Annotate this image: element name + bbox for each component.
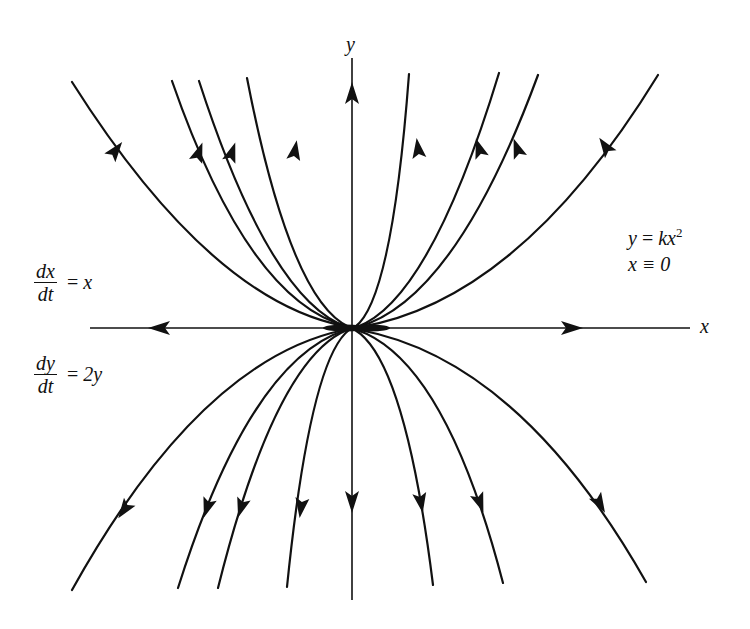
lower-arrowheads	[113, 491, 612, 522]
equation-rhs: = x	[67, 271, 92, 294]
lower-trajectories	[72, 330, 646, 590]
fraction-dx-dt: dx dt	[34, 260, 57, 305]
rhs-value: 2y	[83, 363, 102, 385]
trajectory-lower-5	[355, 330, 433, 585]
numerator: dx	[34, 260, 57, 282]
solution-exponent: 2	[676, 225, 683, 240]
arrow-down-icon	[470, 491, 490, 515]
trajectory-lower-3	[218, 330, 347, 588]
arrow-up-icon	[410, 137, 427, 159]
upper-arrowheads	[104, 134, 616, 164]
denominator: dt	[36, 375, 56, 397]
solution-parabola: y = kx2	[628, 225, 682, 251]
equation-rhs: = 2y	[67, 363, 102, 386]
trajectory-upper-3	[199, 81, 347, 327]
rhs-value: x	[83, 271, 92, 293]
origin-node-right	[350, 325, 390, 332]
phase-portrait-figure: y x dx dt = x dy dt = 2y y = kx2 x ≡ 0	[0, 0, 750, 629]
solution-lhs: y	[628, 227, 637, 249]
upper-trajectories	[72, 73, 658, 327]
trajectory-upper-1	[72, 82, 344, 326]
solution-family-label: y = kx2 x ≡ 0	[628, 225, 682, 277]
trajectory-upper-7	[358, 75, 538, 327]
trajectory-lower-4	[287, 330, 349, 587]
arrow-up-icon	[286, 139, 303, 161]
arrow-down-icon	[412, 492, 429, 514]
equation-dy-dt: dy dt = 2y	[34, 352, 102, 397]
solution-vertical-axis: x ≡ 0	[628, 251, 682, 277]
arrow-down-icon	[589, 492, 611, 516]
trajectory-upper-5	[355, 74, 409, 327]
trajectory-upper-6	[357, 73, 499, 327]
trajectory-lower-6	[357, 330, 503, 583]
numerator: dy	[34, 352, 57, 374]
trajectory-lower-7	[360, 330, 646, 582]
trajectory-lower-2	[178, 330, 346, 588]
solution-equals: =	[642, 227, 653, 249]
arrow-up-icon	[189, 140, 209, 164]
arrow-up-icon	[507, 136, 527, 160]
phase-portrait-svg	[0, 0, 750, 629]
arrow-up-icon	[594, 134, 617, 158]
x-axis-label: x	[700, 316, 709, 336]
y-axis-label: y	[346, 34, 355, 54]
fraction-dy-dt: dy dt	[34, 352, 57, 397]
equation-dx-dt: dx dt = x	[34, 260, 92, 305]
solution-rhs: kx	[658, 227, 676, 249]
denominator: dt	[36, 283, 56, 305]
arrow-down-icon	[231, 496, 250, 519]
arrow-down-icon	[197, 496, 216, 519]
